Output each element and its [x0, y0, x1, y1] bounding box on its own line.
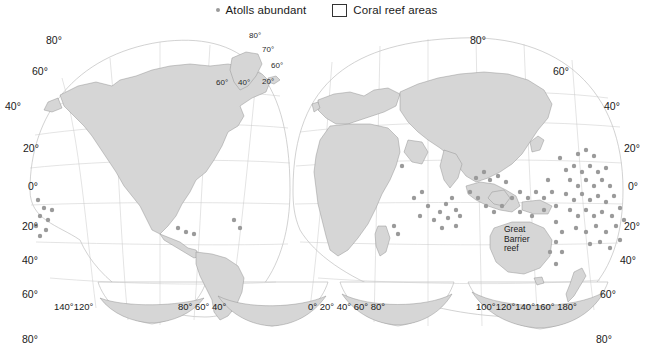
lat-label-left-20s: 20° [22, 220, 38, 232]
coral-reef-world-map: Atolls abundant Coral reef areas [0, 0, 653, 358]
lat-label-right-80n: 80° [470, 34, 486, 46]
box-marker-icon [332, 4, 347, 17]
great-barrier-reef-label: Great Barrier reef [504, 225, 530, 254]
lat-label-right-40s: 40° [620, 254, 636, 266]
lat-label-right-20n: 20° [624, 142, 640, 154]
lon-labels-lobe-2: 80° 60° 40° [178, 301, 226, 312]
lat-label-right-60s: 60° [600, 288, 616, 300]
lat-label-right-40n: 40° [604, 100, 620, 112]
lat-label-left-40s: 40° [22, 254, 38, 266]
lat-label-left-60s: 60° [22, 288, 38, 300]
lat-label-left-80s: 80° [22, 333, 38, 345]
legend-item-atolls: Atolls abundant [216, 4, 307, 16]
lat-label-left-80n: 80° [46, 34, 62, 46]
lon-labels-lobe-4: 100°120°140°160° 180° [476, 301, 577, 312]
inset-label-70n: 70° [262, 45, 274, 54]
lat-label-left-20n: 20° [23, 142, 39, 154]
lon-labels-lobe-3: 0° 20° 40° 60° 80° [308, 301, 385, 312]
lat-label-right-60n: 60° [553, 65, 569, 77]
lat-label-left-40n: 40° [5, 100, 21, 112]
inset-label-60w: 60° [216, 78, 228, 87]
inset-label-60n: 60° [271, 61, 283, 70]
lat-label-left-0: 0° [28, 180, 38, 192]
legend-label-atolls: Atolls abundant [226, 4, 307, 16]
lat-label-left-60n: 60° [32, 65, 48, 77]
inset-label-20w: 20° [262, 77, 274, 86]
lat-label-right-0: 0° [628, 180, 638, 192]
legend-label-coral-reefs: Coral reef areas [353, 4, 437, 16]
map-legend: Atolls abundant Coral reef areas [0, 0, 653, 20]
dot-marker-icon [216, 8, 220, 12]
lon-labels-lobe-1: 140°120° [54, 301, 93, 312]
legend-item-coral-reefs: Coral reef areas [332, 4, 437, 17]
inset-label-80n: 80° [249, 31, 261, 40]
lat-label-right-80s: 80° [596, 333, 612, 345]
map-canvas: 80° 60° 40° 20° 0° 20° 40° 60° 80° 80° 6… [0, 20, 653, 358]
gbr-line-3: reef [504, 244, 530, 254]
inset-label-40w: 40° [238, 78, 250, 87]
lat-label-right-20s: 20° [624, 220, 640, 232]
